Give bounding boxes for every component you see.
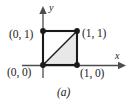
vertex-dot-origin	[40, 62, 46, 68]
vertex-dot-top-right	[74, 28, 80, 34]
x-axis-arrowhead	[118, 62, 126, 69]
y-axis-label: y	[49, 3, 53, 13]
vertex-dot-top-left	[40, 28, 46, 34]
figure-caption: (a)	[57, 87, 70, 99]
vertex-label-origin: (0, 0)	[7, 67, 31, 79]
figure-container: (0, 1) (1, 1) (0, 0) (1, 0) x y (a)	[0, 0, 132, 106]
vertex-label-top-right: (1, 1)	[82, 28, 106, 40]
vertex-label-bottom-right: (1, 0)	[80, 68, 104, 80]
x-axis-label: x	[115, 51, 119, 61]
y-axis-arrowhead	[39, 6, 46, 14]
vertex-label-top-left: (0, 1)	[9, 29, 33, 41]
